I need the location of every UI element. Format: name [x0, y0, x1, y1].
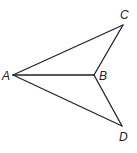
label-point-c: C: [120, 8, 129, 22]
geometry-diagram: A B C D: [0, 0, 137, 153]
label-point-b: B: [99, 69, 107, 83]
segment-bc: [94, 25, 123, 75]
label-point-d: D: [119, 130, 128, 144]
segment-ac: [13, 25, 123, 75]
label-point-a: A: [1, 69, 10, 83]
